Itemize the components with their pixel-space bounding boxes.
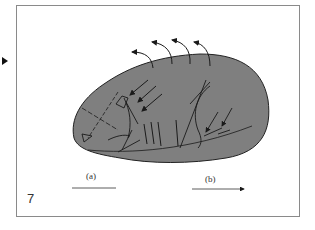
label-a: (a) [86, 171, 96, 181]
blob-shape [73, 54, 269, 163]
diagram-figure [0, 0, 315, 230]
label-b: (b) [205, 174, 216, 184]
figure-number: 7 [27, 191, 34, 206]
